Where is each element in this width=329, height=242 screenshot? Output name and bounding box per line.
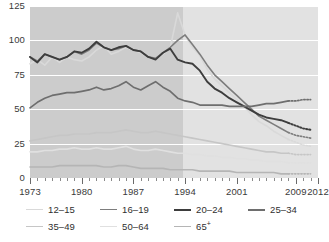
x-tick-minor [126, 178, 127, 181]
x-tick-major [237, 178, 238, 184]
x-tick-minor [207, 178, 208, 181]
legend-item-20–24[interactable]: 20–24 [174, 201, 223, 218]
chart-legend: 12–1516–1920–2425–3435–4950–6465+ [26, 201, 322, 239]
legend-label: 65+ [196, 221, 211, 232]
legend-swatch-icon [100, 226, 117, 227]
x-tick-minor [259, 178, 260, 181]
series-line-35-49 [288, 153, 310, 154]
x-tick-minor [303, 178, 304, 181]
x-tick-minor [111, 178, 112, 181]
legend-swatch-icon [174, 226, 191, 227]
legend-swatch-icon [248, 209, 265, 211]
legend-label: 50–64 [122, 221, 149, 232]
series-line-20-24 [30, 42, 288, 123]
series-line-20-24 [288, 123, 310, 130]
y-axis: 0255075100125 [0, 0, 28, 184]
y-tick-label: 75 [14, 70, 25, 80]
x-tick-minor [170, 178, 171, 181]
x-tick-minor [156, 178, 157, 181]
series-lines [30, 6, 318, 178]
x-tick-minor [89, 178, 90, 181]
x-tick-major [30, 178, 31, 184]
x-tick-minor [178, 178, 179, 181]
x-tick-minor [281, 178, 282, 181]
legend-item-16–19[interactable]: 16–19 [100, 201, 149, 218]
legend-label: 12–15 [48, 204, 75, 215]
series-line-25-34 [288, 100, 310, 101]
x-tick-minor [222, 178, 223, 181]
x-tick-minor [148, 178, 149, 181]
x-tick-minor [60, 178, 61, 181]
legend-row: 12–1516–1920–2425–34 [26, 201, 322, 218]
x-tick-minor [96, 178, 97, 181]
x-tick-minor [163, 178, 164, 181]
x-tick-major [82, 178, 83, 184]
legend-swatch-icon [100, 209, 117, 210]
legend-item-35–49[interactable]: 35–49 [26, 218, 75, 235]
y-tick-label: 0 [20, 173, 25, 183]
x-tick-minor [45, 178, 46, 181]
x-tick-minor [37, 178, 38, 181]
legend-swatch-icon [174, 209, 191, 211]
x-tick-minor [141, 178, 142, 181]
y-tick-label: 50 [14, 104, 25, 114]
legend-label: 20–24 [196, 204, 223, 215]
x-tick-label: 1987 [123, 186, 145, 197]
x-tick-minor [200, 178, 201, 181]
x-tick-minor [215, 178, 216, 181]
legend-item-25–34[interactable]: 25–34 [248, 201, 297, 218]
x-tick-minor [244, 178, 245, 181]
x-tick-major [296, 178, 297, 184]
x-tick-major [133, 178, 134, 184]
y-tick-label: 125 [9, 1, 25, 11]
legend-item-12–15[interactable]: 12–15 [26, 201, 75, 218]
x-tick-label: 2001 [226, 186, 248, 197]
series-line-25-34 [30, 82, 288, 108]
legend-item-65+[interactable]: 65+ [174, 218, 211, 235]
series-line-16-19 [288, 133, 310, 139]
clipped-title-strip [0, 0, 326, 4]
x-tick-minor [229, 178, 230, 181]
x-tick-minor [266, 178, 267, 181]
x-tick-major [318, 178, 319, 184]
x-tick-label: 2012 [307, 186, 329, 197]
x-tick-label: 1980 [71, 186, 93, 197]
plot-area [30, 6, 318, 178]
x-tick-minor [252, 178, 253, 181]
legend-label: 25–34 [270, 204, 297, 215]
x-tick-minor [74, 178, 75, 181]
x-tick-minor [119, 178, 120, 181]
x-tick-minor [274, 178, 275, 181]
x-axis-labels: 1973198019871994200120092012 [0, 186, 326, 200]
x-tick-major [185, 178, 186, 184]
x-tick-minor [104, 178, 105, 181]
legend-swatch-icon [26, 209, 43, 210]
x-tick-minor [311, 178, 312, 181]
legend-item-50–64[interactable]: 50–64 [100, 218, 149, 235]
legend-label: 16–19 [122, 204, 149, 215]
x-tick-label: 1973 [19, 186, 41, 197]
y-tick-label: 25 [14, 139, 25, 149]
x-tick-label: 2009 [285, 186, 307, 197]
x-tick-label: 1994 [174, 186, 196, 197]
x-axis-ticks [30, 178, 318, 185]
x-tick-minor [288, 178, 289, 181]
legend-label: 35–49 [48, 221, 75, 232]
x-tick-minor [67, 178, 68, 181]
series-line-65+ [30, 166, 288, 174]
legend-swatch-icon [26, 226, 43, 227]
legend-label-superscript: + [207, 220, 211, 227]
x-tick-minor [192, 178, 193, 181]
legend-row: 35–4950–6465+ [26, 218, 322, 235]
series-line-12-15 [30, 13, 288, 140]
x-tick-minor [52, 178, 53, 181]
y-tick-label: 100 [9, 35, 25, 45]
series-line-12-15 [288, 139, 310, 146]
